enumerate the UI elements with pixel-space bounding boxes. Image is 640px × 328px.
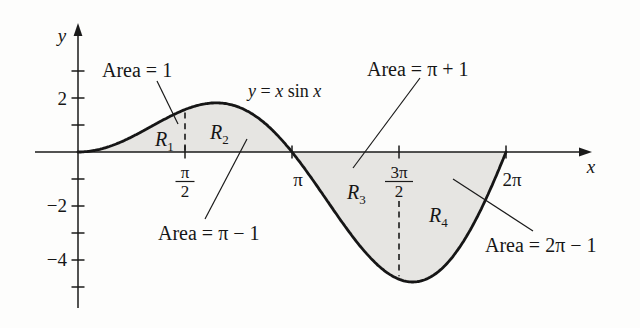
r3-subscript: 3 [359,192,366,207]
y-tick-label-2: 2 [58,88,68,109]
x-tick-label-2pi: 2π [502,169,522,190]
curve-equation-label: y = x sin x [246,81,321,101]
curve-label-sin: sin [283,81,313,101]
curve-label-y: y [246,81,256,101]
r2-subscript: 2 [222,132,229,147]
y-tick-label-neg4: −4 [47,249,68,270]
x-tick-label-pi: π [293,169,303,190]
3pi-over-2-denominator: 2 [395,182,404,201]
r3-letter: R [346,181,359,203]
plot-svg: y x y = x sin x Area = 1 Area = π − 1 Ar… [0,0,640,328]
curve-label-eq: = [256,81,275,101]
area-annotation-r3: Area = π + 1 [367,58,469,80]
r4-letter: R [428,204,441,226]
curve-label-x1: x [274,81,283,101]
r1-letter: R [154,128,167,150]
pi-over-2-numerator: π [181,163,190,182]
y-axis-label: y [56,25,67,46]
3pi-over-2-numerator: 3π [390,163,408,182]
area-annotation-r1: Area = 1 [102,59,172,81]
x-tick-label-pi-over-2: π 2 [176,163,195,201]
curve-label-x2: x [312,81,321,101]
shaded-region-path [78,103,506,282]
r4-subscript: 4 [441,215,448,230]
area-annotation-r4: Area = 2π − 1 [485,234,597,256]
area-annotation-r2: Area = π − 1 [158,222,260,244]
y-tick-label-neg2: −2 [47,195,67,216]
y-axis-arrow-icon [74,23,83,36]
r2-letter: R [209,121,222,143]
figure-container: y x y = x sin x Area = 1 Area = π − 1 Ar… [0,0,640,328]
pi-over-2-denominator: 2 [181,182,190,201]
x-axis-label: x [586,156,596,177]
r1-subscript: 1 [167,139,174,154]
